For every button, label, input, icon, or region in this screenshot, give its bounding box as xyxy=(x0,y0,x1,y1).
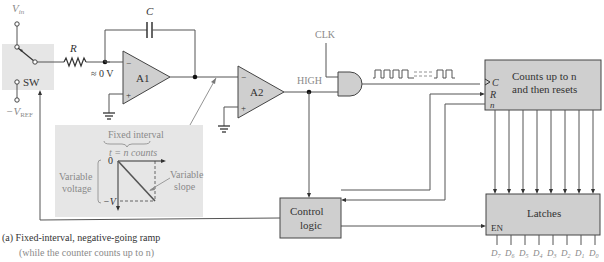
latches-pin-en: EN xyxy=(491,223,503,233)
inset-title: Fixed interval xyxy=(108,129,164,140)
ground-icon-a1 xyxy=(103,113,115,119)
output-d3: D3 xyxy=(546,248,557,259)
vref-label: −VREF xyxy=(6,105,33,119)
inset-neg-v-label: −V xyxy=(103,196,118,207)
virtual-ground-label: ≈ 0 V xyxy=(91,68,114,79)
integrating-adc-diagram: Vin SW −VREF R ≈ 0 V C − + A1 − + A2 xyxy=(0,0,604,262)
vin-label: Vin xyxy=(12,2,25,16)
inset-variable-label: Variable xyxy=(59,171,93,182)
caption-line2: (while the counter counts up to n) xyxy=(19,247,154,259)
control-logic-line2: logic xyxy=(300,219,322,231)
latches-label: Latches xyxy=(527,207,561,219)
counter-pin-n: n xyxy=(490,100,495,110)
output-d7: D7 xyxy=(490,248,502,259)
control-logic-block xyxy=(280,198,341,238)
latch-output-lines xyxy=(497,235,595,245)
capacitor-label: C xyxy=(146,5,154,17)
a1-output-node xyxy=(193,75,198,80)
caption-line1: (a) Fixed-interval, negative-going ramp xyxy=(2,232,160,244)
clock-pulse-train xyxy=(373,70,414,78)
high-label: HIGH xyxy=(297,75,322,86)
counter-to-latch-bus xyxy=(493,110,595,194)
output-d4: D4 xyxy=(532,248,543,259)
inset-variable-slope-line1: Variable xyxy=(170,169,204,180)
output-d5: D5 xyxy=(518,248,529,259)
a2-plus: + xyxy=(241,103,246,113)
vref-switch-terminal xyxy=(15,80,19,84)
output-d0: D0 xyxy=(588,248,599,259)
counter-label-line1: Counts up to n xyxy=(512,70,577,82)
resistor-symbol xyxy=(64,58,86,66)
vin-terminal xyxy=(15,22,19,26)
ground-icon-a2 xyxy=(218,126,230,132)
inset-variable-slope-line2: slope xyxy=(174,181,196,192)
counter-pin-c: C xyxy=(492,77,499,88)
latch-output-labels: D7 D6 D5 D4 D3 D2 D1 D0 xyxy=(490,248,599,259)
a1-minus: − xyxy=(126,58,131,68)
clk-label: CLK xyxy=(315,29,336,40)
resistor-label: R xyxy=(69,42,77,54)
a2-minus: − xyxy=(241,72,246,82)
control-logic-line1: Control xyxy=(290,205,324,217)
sw-label: SW xyxy=(23,76,40,88)
vref-terminal xyxy=(15,98,19,102)
a1-plus: + xyxy=(126,90,131,100)
a1-label: A1 xyxy=(136,72,149,84)
counter-label-line2: and then resets xyxy=(512,83,577,95)
output-d1: D1 xyxy=(574,248,585,259)
and-gate xyxy=(338,72,362,96)
switch-output-terminal xyxy=(33,60,37,64)
output-d2: D2 xyxy=(560,248,571,259)
a2-label: A2 xyxy=(250,86,263,98)
counter-pin-r: R xyxy=(489,89,496,100)
inset-formula: t = n counts xyxy=(109,147,157,158)
output-d6: D6 xyxy=(504,248,515,259)
inset-voltage-label: voltage xyxy=(62,183,92,194)
inset-zero-label: 0 xyxy=(108,155,113,166)
